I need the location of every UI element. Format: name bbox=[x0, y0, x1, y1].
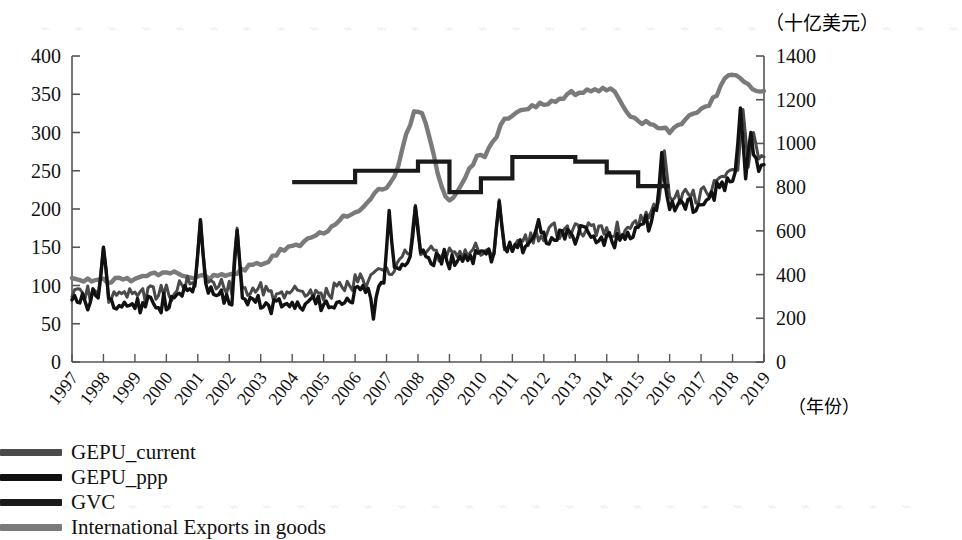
x-axis-tick-label: 2004 bbox=[264, 368, 302, 409]
x-axis-tick-label: 2005 bbox=[296, 368, 334, 409]
x-axis-tick-label: 1999 bbox=[107, 368, 145, 409]
left-axis-tick-label: 300 bbox=[31, 122, 61, 144]
x-axis-tick-label: 2019 bbox=[736, 368, 774, 409]
x-axis-tick-label: 2001 bbox=[170, 368, 208, 409]
axis-layer bbox=[72, 56, 764, 362]
legend-item-exports[interactable]: International Exports in goods bbox=[0, 515, 891, 540]
legend-label-gepu-current: GEPU_current bbox=[71, 440, 196, 465]
right-axis-tick-label: 400 bbox=[776, 264, 806, 286]
legend-swatch-gvc bbox=[0, 499, 62, 506]
left-axis-tick-label: 200 bbox=[31, 198, 61, 220]
x-axis-tick-label: 2007 bbox=[359, 368, 397, 409]
x-axis-tick-label: 2011 bbox=[485, 368, 523, 408]
series-line-gvc bbox=[292, 157, 669, 192]
x-axis-tick-label: 1998 bbox=[76, 368, 114, 409]
x-axis-tick-label: 2009 bbox=[422, 368, 460, 409]
left-axis-tick-label: 150 bbox=[31, 236, 61, 258]
right-axis-tick-label: 1200 bbox=[776, 89, 816, 111]
x-axis-tick-label: 2010 bbox=[453, 368, 491, 409]
legend-item-gepu-ppp[interactable]: GEPU_ppp bbox=[0, 465, 891, 490]
left-axis-tick-label: 0 bbox=[51, 351, 61, 373]
tick-label-layer: 0501001502002503003504000200400600800100… bbox=[31, 45, 816, 409]
chart-plot-area: 0501001502002503003504000200400600800100… bbox=[0, 0, 891, 440]
legend-label-gvc: GVC bbox=[71, 490, 115, 515]
legend-swatch-exports bbox=[0, 524, 62, 531]
right-axis-tick-label: 1000 bbox=[776, 132, 816, 154]
right-axis-tick-label: 800 bbox=[776, 176, 806, 198]
x-axis-tick-label: 2018 bbox=[705, 368, 743, 409]
legend-label-gepu-ppp: GEPU_ppp bbox=[71, 465, 168, 490]
x-axis-tick-label: 1997 bbox=[44, 368, 82, 409]
x-axis-tick-label: 2015 bbox=[610, 368, 648, 409]
x-axis-tick-label: 2017 bbox=[673, 368, 711, 409]
legend-swatch-gepu-ppp bbox=[0, 474, 62, 481]
x-axis-tick-label: 2006 bbox=[327, 368, 365, 409]
legend-swatch-gepu-current bbox=[0, 449, 62, 456]
x-axis-tick-label: 2003 bbox=[233, 368, 271, 409]
left-axis-tick-label: 400 bbox=[31, 45, 61, 67]
right-axis-tick-label: 200 bbox=[776, 307, 806, 329]
series-line-gepu-ppp bbox=[72, 108, 764, 319]
x-axis-tick-label: 2013 bbox=[548, 368, 586, 409]
left-axis-tick-label: 250 bbox=[31, 160, 61, 182]
series-layer bbox=[72, 75, 764, 319]
right-axis-tick-label: 0 bbox=[776, 351, 786, 373]
left-axis-tick-label: 100 bbox=[31, 275, 61, 297]
legend-item-gvc[interactable]: GVC bbox=[0, 490, 891, 515]
x-axis-tick-label: 2014 bbox=[579, 368, 617, 409]
x-axis-tick-label: 2008 bbox=[390, 368, 428, 409]
right-axis-tick-label: 1400 bbox=[776, 45, 816, 67]
legend-item-gepu-current[interactable]: GEPU_current bbox=[0, 440, 891, 465]
x-axis-tick-label: 2000 bbox=[139, 368, 177, 409]
left-axis-tick-label: 350 bbox=[31, 83, 61, 105]
legend-label-exports: International Exports in goods bbox=[71, 515, 326, 540]
left-axis-tick-label: 50 bbox=[41, 313, 61, 335]
x-axis-tick-label: 2016 bbox=[642, 368, 680, 409]
x-axis-tick-label: 2002 bbox=[202, 368, 240, 409]
right-axis-tick-label: 600 bbox=[776, 220, 806, 242]
chart-legend: GEPU_current GEPU_ppp GVC International … bbox=[0, 440, 891, 510]
x-axis-tick-label: 2012 bbox=[516, 368, 554, 409]
